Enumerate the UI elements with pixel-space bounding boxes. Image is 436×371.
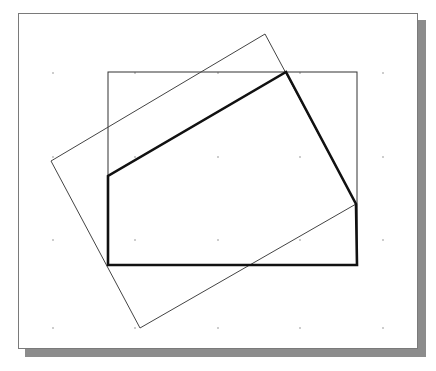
grid-dot (134, 156, 135, 157)
grid-dot (217, 327, 218, 328)
rectangle-shape[interactable] (108, 72, 357, 265)
grid-dot (217, 239, 218, 240)
grid-dot (299, 239, 300, 240)
grid-dot (134, 327, 135, 328)
grid-dot (52, 72, 53, 73)
grid-dot (134, 72, 135, 73)
grid-dot (52, 327, 53, 328)
grid-dot (382, 327, 383, 328)
thick-outline-shape[interactable] (108, 72, 357, 265)
rotated-rectangle-shape[interactable] (51, 34, 356, 328)
grid-dot (52, 239, 53, 240)
grid-dot (299, 72, 300, 73)
grid-dot (52, 156, 53, 157)
drawing-canvas[interactable] (0, 0, 436, 371)
grid-dot (217, 156, 218, 157)
grid-dot (382, 72, 383, 73)
grid-dot (299, 327, 300, 328)
grid-dot (382, 156, 383, 157)
grid-dot (299, 156, 300, 157)
grid-dot (134, 239, 135, 240)
grid-dot (382, 239, 383, 240)
grid-dot (217, 72, 218, 73)
